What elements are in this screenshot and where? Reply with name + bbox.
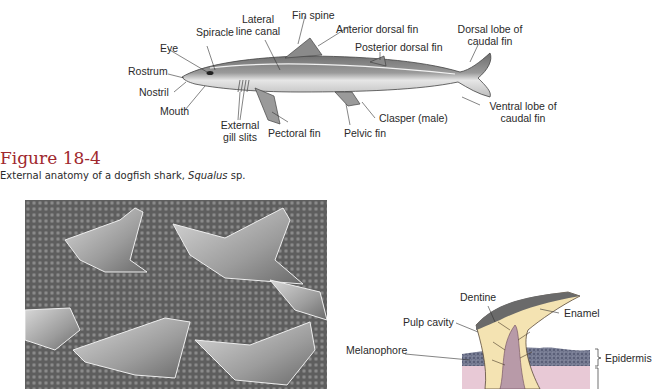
placoid-scale-diagram bbox=[0, 0, 657, 389]
label-dentine: Dentine bbox=[460, 291, 496, 303]
label-melanophore: Melanophore bbox=[346, 344, 407, 356]
label-epidermis: Epidermis bbox=[605, 352, 652, 364]
label-pulp-cavity: Pulp cavity bbox=[403, 316, 454, 328]
label-enamel: Enamel bbox=[564, 307, 600, 319]
